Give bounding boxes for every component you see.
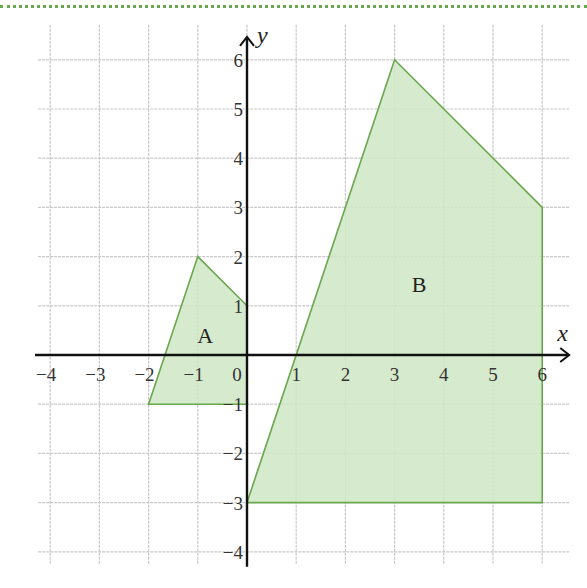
shape-label-A: A [197, 323, 213, 348]
x-tick-label: −2 [134, 364, 154, 385]
y-axis-label: y [255, 22, 268, 48]
x-tick-label: 3 [390, 364, 400, 385]
coordinate-plane: xy−4−3−2−10123456654321−1−2−3−4AB [0, 0, 587, 588]
y-tick-label: 2 [234, 247, 244, 268]
x-tick-label: −1 [184, 364, 204, 385]
y-tick-label: −1 [223, 394, 243, 415]
x-tick-label: 0 [232, 364, 242, 385]
y-tick-label: 1 [234, 296, 244, 317]
y-tick-label: −4 [223, 542, 244, 563]
x-tick-label: 5 [488, 364, 498, 385]
x-axis-label: x [556, 320, 568, 346]
y-tick-label: 3 [234, 197, 244, 218]
y-tick-label: 4 [234, 148, 244, 169]
y-tick-label: 6 [234, 50, 244, 71]
shape-label-B: B [412, 272, 427, 297]
y-tick-label: −3 [223, 493, 243, 514]
x-tick-label: 1 [291, 364, 301, 385]
y-tick-label: −2 [223, 443, 243, 464]
x-tick-label: 6 [537, 364, 547, 385]
y-tick-label: 5 [234, 99, 244, 120]
shape-B [247, 60, 542, 503]
x-tick-label: −4 [36, 364, 57, 385]
x-tick-label: −3 [85, 364, 105, 385]
x-tick-label: 4 [439, 364, 449, 385]
x-tick-label: 2 [341, 364, 351, 385]
